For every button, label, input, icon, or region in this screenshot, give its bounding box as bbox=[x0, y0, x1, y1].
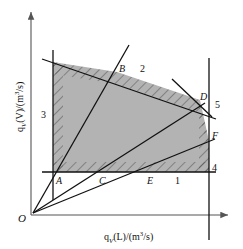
point-label-C: C bbox=[99, 176, 106, 186]
figure-container: qV(V)/(m3/s) qV(L)/(m3/s) O A B C D E F … bbox=[0, 0, 243, 249]
point-label-E: E bbox=[147, 176, 153, 186]
y-axis-label: qV(V)/(m3/s) bbox=[14, 82, 28, 132]
line-label-2: 2 bbox=[140, 64, 145, 74]
line-label-1: 1 bbox=[175, 176, 180, 186]
point-label-B: B bbox=[119, 64, 125, 74]
point-label-A: A bbox=[56, 176, 62, 186]
hatch-band-bottom bbox=[53, 162, 209, 172]
point-label-D: D bbox=[200, 92, 207, 102]
line-label-3: 3 bbox=[41, 110, 46, 120]
line-label-5: 5 bbox=[215, 100, 220, 110]
line-label-4: 4 bbox=[212, 163, 217, 173]
x-axis-label: qV(L)/(m3/s) bbox=[104, 231, 153, 245]
point-label-F: F bbox=[212, 131, 218, 141]
diagram-canvas bbox=[0, 0, 243, 249]
origin-label: O bbox=[18, 213, 26, 224]
hatch-band-left bbox=[53, 62, 63, 172]
